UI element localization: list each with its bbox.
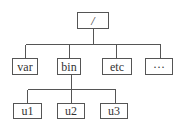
- node-u2: u2: [57, 103, 85, 119]
- node-more-label: ···: [153, 61, 165, 73]
- node-u1: u1: [13, 103, 42, 119]
- node-etc-label: etc: [110, 61, 124, 73]
- node-var: var: [12, 58, 38, 75]
- node-etc: etc: [102, 58, 132, 75]
- node-u1-label: u1: [22, 105, 34, 117]
- node-var-label: var: [17, 61, 32, 73]
- node-root-label: /: [91, 15, 94, 27]
- node-u3-label: u3: [108, 105, 120, 117]
- node-u3: u3: [100, 103, 128, 119]
- node-bin-label: bin: [61, 61, 76, 73]
- node-bin: bin: [57, 58, 81, 75]
- node-root: /: [77, 12, 109, 29]
- node-more: ···: [145, 58, 173, 75]
- node-u2-label: u2: [65, 105, 77, 117]
